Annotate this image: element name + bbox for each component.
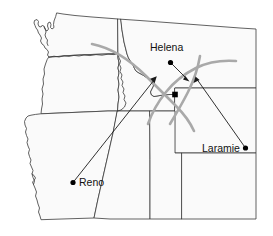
map-canvas: Helena Laramie Reno [0,0,273,236]
map-figure: Helena Laramie Reno [0,0,273,236]
city-dot-laramie [243,145,248,150]
state-washington [34,13,118,57]
city-label-helena: Helena [150,41,183,53]
city-dot-reno [70,180,75,185]
state-oregon [41,54,119,114]
central-station-marker [172,92,178,98]
state-colorado [182,153,256,219]
state-outlines [25,13,257,220]
city-dot-helena [168,60,173,65]
city-label-laramie: Laramie [202,142,240,154]
city-label-reno: Reno [79,176,104,188]
